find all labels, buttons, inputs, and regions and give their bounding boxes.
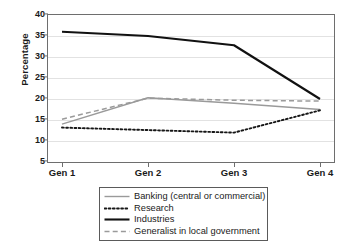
- series-line: [62, 110, 320, 132]
- series-line: [62, 32, 320, 99]
- x-axis-tick-labels: Gen 1Gen 2Gen 3Gen 4: [47, 167, 335, 183]
- legend-label: Industries: [134, 214, 174, 226]
- legend-swatch-solid-icon: [104, 191, 130, 202]
- legend-item[interactable]: Generalist in local government: [104, 226, 262, 238]
- legend-swatch-dashed-icon: [104, 226, 130, 237]
- legend-label: Generalist in local government: [134, 226, 260, 238]
- legend-swatch-dotted-icon: [104, 203, 130, 214]
- x-tick-label: Gen 3: [204, 167, 264, 178]
- y-tick-label: 30: [23, 51, 45, 61]
- y-tick-label: 5: [23, 156, 45, 166]
- legend-item[interactable]: Research: [104, 203, 262, 215]
- x-tick-label: Gen 4: [290, 167, 350, 178]
- legend-item[interactable]: Industries: [104, 214, 262, 226]
- y-axis-tick-labels: 510152025303540: [19, 14, 45, 163]
- series-line: [62, 98, 320, 119]
- y-tick-label: 20: [23, 93, 45, 103]
- y-tick-label: 35: [23, 30, 45, 40]
- y-tick-label: 10: [23, 135, 45, 145]
- y-tick-label: 15: [23, 114, 45, 124]
- plot-area: [47, 14, 335, 163]
- line-chart: Percentage 510152025303540 Gen 1Gen 2Gen…: [0, 0, 351, 249]
- legend-swatch-solid-icon: [104, 214, 130, 225]
- y-tick-label: 25: [23, 72, 45, 82]
- legend-label: Banking (central or commercial): [134, 191, 265, 203]
- legend-label: Research: [134, 203, 174, 215]
- legend-item[interactable]: Banking (central or commercial): [104, 191, 262, 203]
- series-lines: [48, 15, 334, 162]
- chart-legend: Banking (central or commercial)ResearchI…: [99, 187, 268, 241]
- x-tick-label: Gen 2: [118, 167, 178, 178]
- x-tick-label: Gen 1: [32, 167, 92, 178]
- y-tick-label: 40: [23, 9, 45, 19]
